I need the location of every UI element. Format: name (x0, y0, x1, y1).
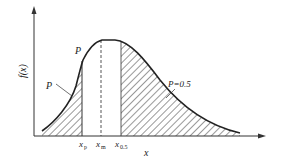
x-axis-arrow-icon (258, 134, 266, 139)
pdf-diagram: f(x) x P P P=0.5 x p x m x 0.5 (0, 0, 282, 166)
x-axis-label: x (143, 147, 149, 158)
svg-text:x: x (95, 139, 100, 149)
svg-text:0.5: 0.5 (120, 144, 128, 150)
y-axis-arrow-icon (32, 6, 37, 14)
tick-label-xp: x p (78, 139, 87, 150)
left-area-p-label: P (45, 80, 52, 91)
right-area-p-label: P=0.5 (167, 79, 191, 89)
svg-text:m: m (101, 144, 106, 150)
point-p-label: P (74, 45, 81, 56)
y-axis-label: f(x) (17, 63, 29, 78)
tick-label-xm: x m (95, 139, 106, 150)
svg-text:p: p (84, 144, 87, 150)
svg-text:x: x (78, 139, 83, 149)
svg-text:x: x (114, 139, 119, 149)
left-p-leader (56, 84, 72, 96)
tick-label-x05: x 0.5 (114, 139, 128, 150)
